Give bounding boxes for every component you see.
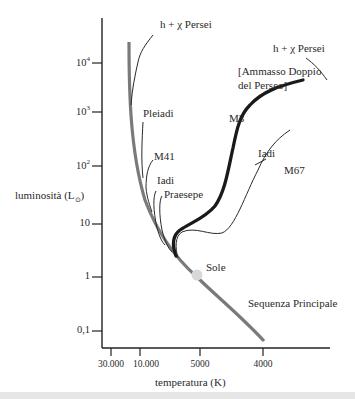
label-sole: Sole <box>206 261 226 273</box>
label-iadi-left: Iadi <box>157 174 174 186</box>
y-tick-label-1e4: 104 <box>76 55 90 68</box>
hr-diagram: 104 103 102 10 1 0,1 luminosità (L⊙) 30.… <box>0 0 355 399</box>
x-tick-label-10000: 10.000 <box>133 359 159 369</box>
y-tick-label-1e2: 102 <box>76 158 90 171</box>
label-sequenza-principale: Sequenza Principale <box>248 297 338 309</box>
x-tick-label-4000: 4000 <box>254 359 273 369</box>
pleiadi-curve <box>142 122 143 178</box>
y-tick-label-1: 1 <box>85 270 90 281</box>
y-tick-label-0-1: 0,1 <box>77 324 90 335</box>
label-iadi-right: Iadi <box>258 147 275 159</box>
label-ammasso-line2: del Perseo] <box>238 79 287 91</box>
label-pleiadi: Pleiadi <box>143 107 174 119</box>
y-axis-label: luminosità (L⊙) <box>15 189 84 206</box>
y-tick-label-1e3: 103 <box>76 104 90 117</box>
label-m67: M67 <box>284 164 305 176</box>
sun-marker <box>192 270 203 281</box>
x-tick-label-30000: 30.000 <box>98 359 124 369</box>
label-h-chi-persei-legend: h + χ Persei <box>273 42 325 54</box>
x-tick-label-5000: 5000 <box>191 359 210 369</box>
label-ammasso-line1: [Ammasso Doppio <box>238 65 321 77</box>
label-praesepe: Praesepe <box>164 188 203 200</box>
label-m41: M41 <box>154 150 175 162</box>
label-h-chi-persei-top: h + χ Persei <box>160 18 212 30</box>
h-chi-persei-curve <box>131 35 153 105</box>
y-tick-label-10: 10 <box>80 217 91 228</box>
bottom-border-strip <box>0 392 355 399</box>
label-m3: M3 <box>229 112 244 124</box>
x-axis-label: temperatura (K) <box>155 376 226 388</box>
